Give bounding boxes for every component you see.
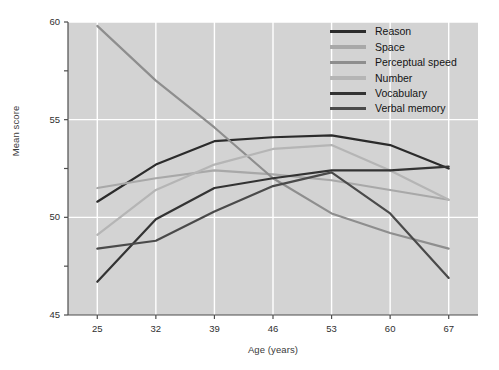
legend-color-swatch bbox=[330, 76, 366, 79]
legend-item: Number bbox=[330, 70, 480, 85]
legend-item: Perceptual speed bbox=[330, 55, 480, 70]
legend-item-label: Number bbox=[375, 73, 412, 84]
legend-item-label: Perceptual speed bbox=[375, 57, 457, 68]
y-tick-label: 45 bbox=[34, 309, 60, 320]
legend-item: Verbal memory bbox=[330, 101, 480, 116]
y-axis-title: Mean score bbox=[10, 91, 21, 171]
x-tick-label: 32 bbox=[141, 323, 171, 334]
legend-item-label: Verbal memory bbox=[375, 103, 446, 114]
x-tick-label: 67 bbox=[434, 323, 464, 334]
x-tick-label: 53 bbox=[317, 323, 347, 334]
y-tick-label: 60 bbox=[34, 16, 60, 27]
legend-item: Reason bbox=[330, 24, 480, 39]
x-tick-label: 46 bbox=[258, 323, 288, 334]
legend-color-swatch bbox=[330, 61, 366, 64]
y-tick-label: 50 bbox=[34, 211, 60, 222]
legend-item: Space bbox=[330, 39, 480, 54]
x-axis-title: Age (years) bbox=[68, 344, 478, 355]
legend-color-swatch bbox=[330, 45, 366, 48]
chart-legend: ReasonSpacePerceptual speedNumberVocabul… bbox=[330, 24, 480, 116]
y-tick-label: 55 bbox=[34, 114, 60, 125]
legend-item: Vocabulary bbox=[330, 86, 480, 101]
legend-item-label: Reason bbox=[375, 26, 411, 37]
legend-item-label: Vocabulary bbox=[375, 88, 427, 99]
x-tick-label: 60 bbox=[375, 323, 405, 334]
legend-color-swatch bbox=[330, 107, 366, 110]
x-tick-label: 39 bbox=[199, 323, 229, 334]
legend-item-label: Space bbox=[375, 42, 405, 53]
legend-color-swatch bbox=[330, 92, 366, 95]
x-tick-label: 25 bbox=[82, 323, 112, 334]
legend-color-swatch bbox=[330, 30, 366, 33]
line-chart-figure: Mean score Age (years) 45505560 25323946… bbox=[0, 0, 499, 370]
